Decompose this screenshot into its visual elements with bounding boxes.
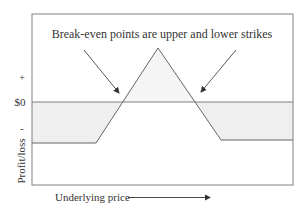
- y-tick-minus: -: [20, 123, 23, 134]
- loss-area-right: [195, 102, 293, 140]
- arrow-upper-breakeven: [201, 50, 236, 92]
- x-axis-label: Underlying price: [55, 191, 130, 203]
- y-tick-plus: +: [19, 72, 25, 83]
- arrow-lower-breakeven: [84, 50, 119, 93]
- loss-area-left: [32, 102, 122, 143]
- profit-area-center: [122, 48, 195, 102]
- y-tick-zero: $0: [15, 96, 27, 108]
- annotation-text: Break-even points are upper and lower st…: [52, 27, 273, 41]
- y-axis-label: Profit/loss: [15, 138, 27, 183]
- payoff-diagram: Break-even points are upper and lower st…: [0, 0, 307, 215]
